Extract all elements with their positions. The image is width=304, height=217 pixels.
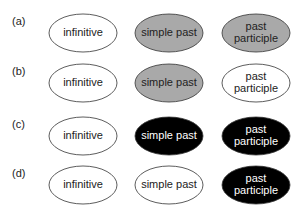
row-label: (a): [12, 15, 25, 27]
simple-past-label: simple past: [141, 129, 197, 141]
past-participle-label: past: [246, 20, 267, 32]
past-participle-label: participle: [234, 135, 278, 147]
infinitive-label: infinitive: [63, 178, 103, 190]
past-participle-label: past: [246, 70, 267, 82]
row-d: (d)infinitivesimple pastpastparticiple: [12, 166, 290, 204]
past-participle-label: participle: [234, 82, 278, 94]
row-b: (b)infinitivesimple pastpastparticiple: [12, 64, 290, 102]
simple-past-label: simple past: [141, 178, 197, 190]
verb-forms-diagram: (a)infinitivesimple pastpastparticiple(b…: [0, 0, 304, 217]
row-label: (c): [12, 118, 25, 130]
row-a: (a)infinitivesimple pastpastparticiple: [12, 14, 290, 52]
row-c: (c)infinitivesimple pastpastparticiple: [12, 117, 290, 155]
past-participle-label: participle: [234, 184, 278, 196]
past-participle-label: past: [246, 123, 267, 135]
simple-past-label: simple past: [141, 26, 197, 38]
past-participle-label: participle: [234, 32, 278, 44]
past-participle-label: past: [246, 172, 267, 184]
row-label: (b): [12, 65, 25, 77]
infinitive-label: infinitive: [63, 129, 103, 141]
simple-past-label: simple past: [141, 76, 197, 88]
row-label: (d): [12, 167, 25, 179]
infinitive-label: infinitive: [63, 26, 103, 38]
infinitive-label: infinitive: [63, 76, 103, 88]
